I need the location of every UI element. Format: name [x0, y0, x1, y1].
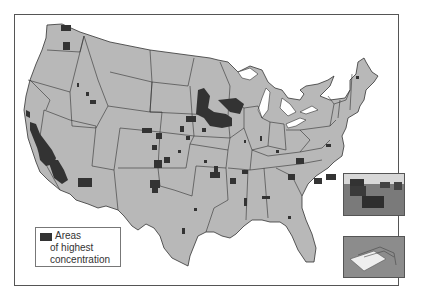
- legend-line-3: concentration: [50, 254, 110, 266]
- feedlot-illustration-inset: [343, 236, 405, 278]
- cattle-image: [344, 174, 404, 215]
- cattle-photo-inset: [343, 173, 405, 216]
- legend-line-2: of highest: [50, 242, 93, 254]
- map-legend: Areas of highest concentration: [35, 227, 121, 267]
- legend-line-1: Areas: [55, 230, 81, 242]
- trough-illustration: [344, 237, 404, 277]
- concentration-swatch: [40, 233, 52, 241]
